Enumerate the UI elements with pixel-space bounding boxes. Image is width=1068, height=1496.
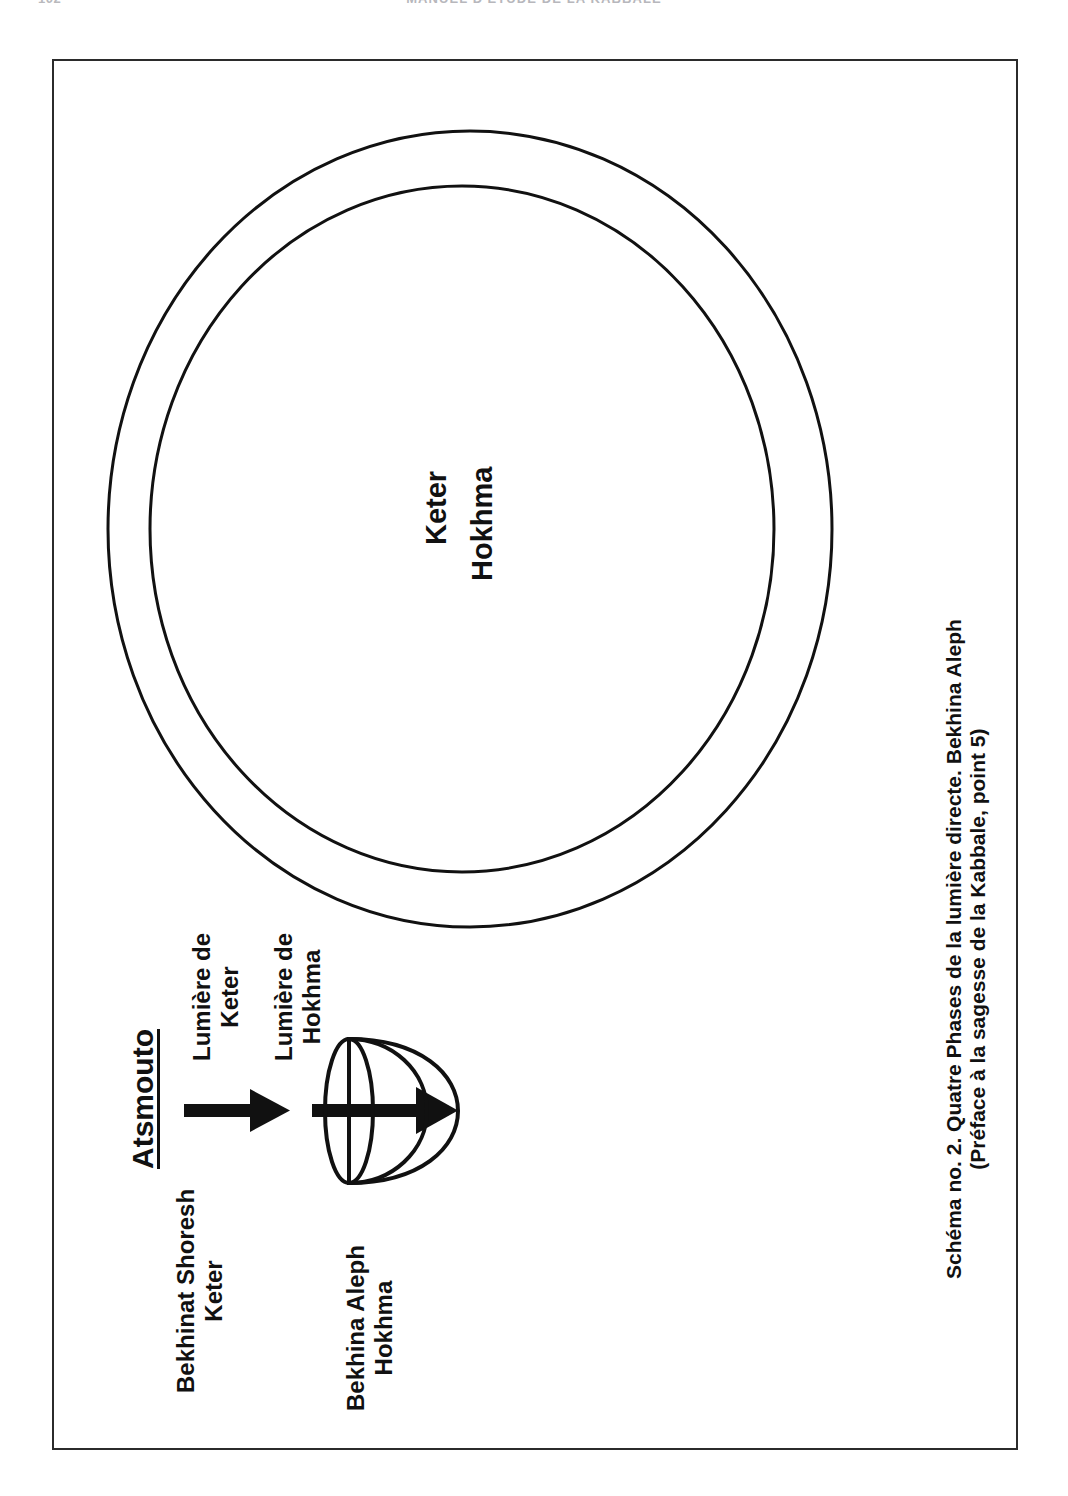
figure-caption-line1: Schéma no. 2. Quatre Phases de la lumièr… <box>942 619 966 1279</box>
label-bekhina-aleph-hokhma-line2: Hokhma <box>370 1245 398 1411</box>
label-lumiere-de-keter-line1: Lumière de <box>188 933 216 1061</box>
figure-caption: Schéma no. 2. Quatre Phases de la lumièr… <box>942 619 991 1279</box>
label-lumiere-de-keter: Lumière de Keter <box>188 933 244 1061</box>
running-head: 102 MANUEL D'ETUDE DE LA KABBALE <box>0 0 1068 9</box>
figure-frame: Keter Hokhma Atsmouto Lumière de Keter L… <box>52 59 1018 1450</box>
label-hokhma: Hokhma <box>466 467 500 581</box>
label-bekhina-aleph-hokhma: Bekhina Aleph Hokhma <box>342 1245 398 1411</box>
figure-caption-line2: (Préface à la sagesse de la Kabbale, poi… <box>966 619 990 1279</box>
arrow-keter-glyph <box>184 1089 290 1132</box>
label-lumiere-de-keter-line2: Keter <box>216 933 244 1061</box>
arrow-hokhma-glyph <box>312 1087 458 1134</box>
inner-circle-hokhma <box>150 186 774 872</box>
label-atsmouto: Atsmouto <box>126 1029 161 1169</box>
label-bekhinat-shoresh-keter: Bekhinat Shoresh Keter <box>172 1189 228 1393</box>
label-bekhina-aleph-hokhma-line1: Bekhina Aleph <box>342 1245 370 1411</box>
label-bekhinat-shoresh-keter-line2: Keter <box>200 1189 228 1393</box>
label-keter: Keter <box>420 471 454 545</box>
label-bekhinat-shoresh-keter-line1: Bekhinat Shoresh <box>172 1189 200 1393</box>
kabbalah-diagram: Keter Hokhma Atsmouto Lumière de Keter L… <box>54 61 1016 1448</box>
running-head-title: MANUEL D'ETUDE DE LA KABBALE <box>0 0 1068 6</box>
label-lumiere-de-hokhma-line2: Hokhma <box>298 933 326 1061</box>
label-lumiere-de-hokhma: Lumière de Hokhma <box>270 933 326 1061</box>
label-lumiere-de-hokhma-line1: Lumière de <box>270 933 298 1061</box>
